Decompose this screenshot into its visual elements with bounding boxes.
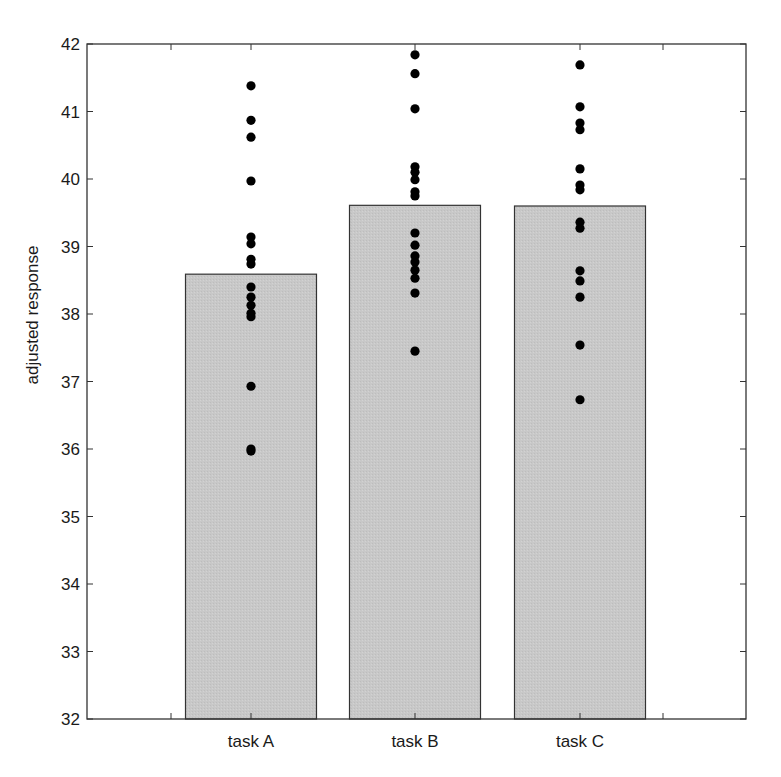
data-point — [246, 116, 255, 125]
data-point — [410, 175, 419, 184]
data-point — [410, 288, 419, 297]
data-point — [246, 382, 255, 391]
data-point — [575, 102, 584, 111]
data-point — [410, 69, 419, 78]
data-point — [575, 266, 584, 275]
data-point — [246, 301, 255, 310]
y-tick-label: 36 — [61, 440, 80, 459]
data-point — [410, 274, 419, 283]
x-tick-label: task C — [556, 732, 604, 751]
data-point — [246, 312, 255, 321]
x-tick-label: task B — [391, 732, 438, 751]
data-point — [410, 191, 419, 200]
data-point — [410, 104, 419, 113]
data-point — [246, 176, 255, 185]
data-point — [575, 276, 584, 285]
y-tick-label: 41 — [61, 103, 80, 122]
y-tick-label: 35 — [61, 508, 80, 527]
y-tick-label: 38 — [61, 305, 80, 324]
y-tick-label: 37 — [61, 373, 80, 392]
y-tick-label: 40 — [61, 170, 80, 189]
bar-chart: 3233343536373839404142 task Atask Btask … — [0, 0, 781, 777]
data-point — [410, 347, 419, 356]
data-point — [575, 395, 584, 404]
y-axis-label: adjusted response — [23, 246, 42, 385]
data-point — [575, 60, 584, 69]
data-point — [246, 239, 255, 248]
y-tick-label: 32 — [61, 710, 80, 729]
data-point — [575, 293, 584, 302]
data-point — [246, 293, 255, 302]
data-point — [410, 50, 419, 59]
y-tick-label: 34 — [61, 575, 80, 594]
data-point — [410, 228, 419, 237]
data-point — [575, 185, 584, 194]
data-point — [410, 241, 419, 250]
data-point — [575, 164, 584, 173]
data-point — [575, 125, 584, 134]
data-point — [410, 266, 419, 275]
data-point — [246, 133, 255, 142]
y-tick-label: 33 — [61, 643, 80, 662]
data-point — [246, 446, 255, 455]
data-point — [575, 224, 584, 233]
data-point — [410, 257, 419, 266]
bar-task-a — [186, 274, 317, 719]
data-point — [575, 340, 584, 349]
data-point — [246, 81, 255, 90]
data-point — [246, 282, 255, 291]
y-tick-label: 42 — [61, 35, 80, 54]
x-tick-label: task A — [228, 732, 275, 751]
data-point — [246, 259, 255, 268]
y-tick-label: 39 — [61, 238, 80, 257]
